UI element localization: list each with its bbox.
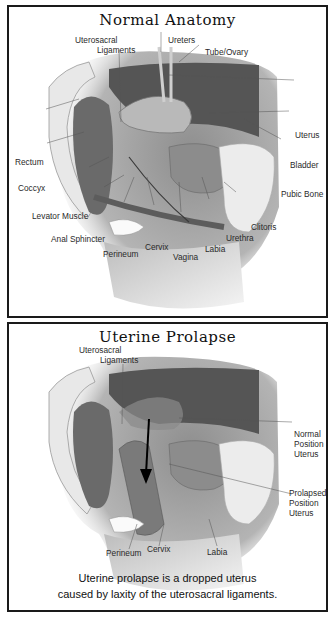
- label-cervix: Cervix: [147, 544, 171, 554]
- label-urethra: Urethra: [226, 233, 254, 243]
- label-prolapsed-position-uterus-1: Prolapsed: [289, 488, 326, 498]
- label-coccyx: Coccyx: [18, 183, 45, 193]
- label-labia: Labia: [207, 547, 227, 557]
- label-normal-position-uterus-2: Position: [294, 439, 324, 449]
- normal-anatomy-panel: Normal Anatomy: [7, 5, 328, 318]
- label-tube-ovary: Tube/Ovary: [205, 47, 248, 57]
- label-normal-position-uterus-3: Uterus: [294, 449, 318, 459]
- label-ligaments: Ligaments: [97, 45, 135, 55]
- label-ligaments: Ligaments: [100, 355, 138, 365]
- label-anal-sphincter: Anal Sphincter: [51, 234, 105, 244]
- label-uterus: Uterus: [295, 130, 319, 140]
- label-ureters: Ureters: [168, 35, 195, 45]
- label-prolapsed-position-uterus-3: Uterus: [289, 508, 313, 518]
- label-labia: Labia: [205, 244, 225, 254]
- label-vagina: Vagina: [173, 252, 198, 262]
- label-uterosacral: Uterosacral: [79, 345, 121, 355]
- label-pubic-bone: Pubic Bone: [281, 189, 323, 199]
- label-perineum: Perineum: [103, 249, 139, 259]
- label-prolapsed-position-uterus-2: Position: [289, 498, 319, 508]
- label-normal-position-uterus-1: Normal: [294, 429, 321, 439]
- label-cervix: Cervix: [145, 242, 169, 252]
- uterine-prolapse-panel: Uterine Prolapse Uterosacral Ligaments: [7, 322, 328, 612]
- label-perineum: Perineum: [106, 548, 142, 558]
- label-rectum: Rectum: [15, 157, 44, 167]
- caption-line-1: Uterine prolapse is a dropped uterus: [9, 571, 326, 586]
- label-bladder: Bladder: [290, 160, 319, 170]
- label-levator-muscle: Levator Muscle: [32, 211, 88, 221]
- caption-line-2: caused by laxity of the uterosacral liga…: [9, 587, 326, 602]
- label-clitoris: Clitoris: [251, 222, 276, 232]
- normal-anatomy-illustration: [9, 7, 326, 316]
- label-uterosacral: Uterosacral: [75, 35, 117, 45]
- uterine-prolapse-illustration: [9, 324, 326, 610]
